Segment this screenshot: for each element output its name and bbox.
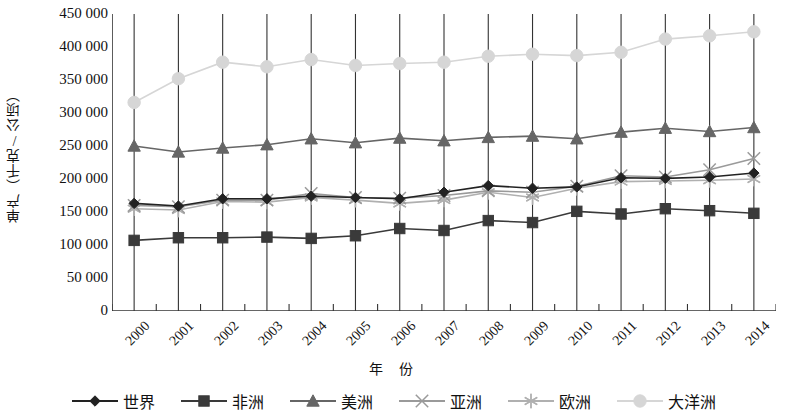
x-axis-tick-label: 2001 [160, 318, 198, 356]
marker-square [173, 233, 183, 243]
marker-square [749, 208, 759, 218]
marker-square [129, 235, 139, 245]
marker-circle [216, 56, 228, 68]
x-axis-tick-label: 2012 [646, 318, 684, 356]
y-axis-tick-label: 300 000 [59, 105, 108, 120]
marker-circle [349, 59, 361, 71]
marker-triangle [748, 121, 760, 132]
legend-label: 美洲 [341, 389, 373, 413]
marker-square [306, 233, 316, 243]
x-axis-tick-label: 2002 [204, 318, 242, 356]
marker-diamond [483, 180, 493, 190]
x-axis-tick-label: 2008 [469, 318, 507, 356]
x-axis-tick-label: 2003 [248, 318, 286, 356]
legend-label: 亚洲 [450, 389, 482, 413]
chart-figure: 单产（千克/公顷） 450 000400 000350 000300 00025… [0, 0, 788, 420]
marker-circle [305, 53, 317, 65]
marker-triangle [128, 140, 140, 151]
marker-circle [659, 33, 671, 45]
marker-circle [482, 50, 494, 62]
legend-item-美洲[interactable]: 美洲 [290, 389, 373, 413]
x-axis-tick-label: 2010 [558, 318, 596, 356]
legend-item-大洋洲[interactable]: 大洋洲 [617, 389, 716, 413]
marker-square [704, 205, 714, 215]
marker-circle [615, 46, 627, 58]
y-axis-tick-label: 400 000 [59, 39, 108, 54]
y-axis-tick-label: 350 000 [59, 72, 108, 87]
y-axis-tick-label: 50 000 [67, 270, 108, 285]
marker-triangle [305, 133, 317, 144]
legend-label: 世界 [123, 389, 155, 413]
marker-circle [634, 395, 646, 407]
marker-square [199, 396, 209, 406]
marker-square [660, 204, 670, 214]
y-axis-tick-label: 150 000 [59, 204, 108, 219]
legend-symbol-circle [617, 392, 663, 410]
x-axis-tick-label: 2006 [381, 318, 419, 356]
marker-diamond [660, 173, 670, 183]
marker-circle [438, 56, 450, 68]
marker-square [616, 209, 626, 219]
marker-circle [172, 72, 184, 84]
y-axis-tick-label: 100 000 [59, 237, 108, 252]
marker-square [350, 231, 360, 241]
x-axis-tick-label: 2000 [115, 318, 153, 356]
y-axis-tick-label: 200 000 [59, 171, 108, 186]
legend-symbol-square [181, 392, 227, 410]
legend-label: 大洋洲 [668, 389, 716, 413]
marker-circle [703, 30, 715, 42]
y-axis-tick-label: 450 000 [59, 6, 108, 21]
legend-label: 非洲 [232, 389, 264, 413]
marker-circle [128, 96, 140, 108]
x-axis-tick-label: 2004 [292, 318, 330, 356]
marker-circle [261, 61, 273, 73]
legend-symbol-diamond [72, 392, 118, 410]
y-axis-tick-label: 0 [101, 303, 109, 318]
legend-item-欧洲[interactable]: 欧洲 [508, 389, 591, 413]
marker-circle [394, 57, 406, 69]
marker-square [217, 233, 227, 243]
marker-square [395, 223, 405, 233]
legend-item-非洲[interactable]: 非洲 [181, 389, 264, 413]
y-axis-tick-labels: 450 000400 000350 000300 000250 000200 0… [16, 0, 108, 320]
chart-legend: 世界非洲美洲亚洲欧洲大洋洲 [0, 386, 788, 416]
marker-square [527, 217, 537, 227]
legend-item-亚洲[interactable]: 亚洲 [399, 389, 482, 413]
marker-diamond [90, 396, 100, 406]
x-axis-tick-label: 2014 [735, 318, 773, 356]
marker-square [262, 232, 272, 242]
marker-circle [748, 26, 760, 38]
marker-square [483, 215, 493, 225]
x-axis-tick-label: 2005 [337, 318, 375, 356]
legend-symbol-triangle [290, 392, 336, 410]
marker-triangle [659, 122, 671, 133]
x-axis-tick-label: 2007 [425, 318, 463, 356]
x-axis-tick-label: 2011 [602, 318, 640, 356]
marker-square [439, 225, 449, 235]
x-axis-tick-label: 2009 [514, 318, 552, 356]
plot-area [112, 14, 776, 311]
x-axis-title: 年 份 [0, 358, 788, 378]
y-axis-tick-label: 250 000 [59, 138, 108, 153]
legend-label: 欧洲 [559, 389, 591, 413]
legend-symbol-asterisk [508, 392, 554, 410]
series-canvas [112, 14, 776, 311]
x-axis-tick-label: 2013 [691, 318, 729, 356]
marker-circle [526, 48, 538, 60]
marker-square [572, 206, 582, 216]
legend-symbol-x [399, 392, 445, 410]
marker-circle [571, 49, 583, 61]
legend-item-世界[interactable]: 世界 [72, 389, 155, 413]
